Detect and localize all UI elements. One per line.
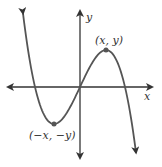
max-point-label: (x, y) xyxy=(95,34,123,47)
x-axis-label: x xyxy=(144,90,151,103)
min-point xyxy=(52,122,57,127)
min-point-label: (−x, −y) xyxy=(29,129,75,142)
cubic-graph: y x (x, y) (−x, −y) xyxy=(0,0,162,167)
y-axis-label: y xyxy=(85,11,93,24)
max-point xyxy=(104,48,109,53)
